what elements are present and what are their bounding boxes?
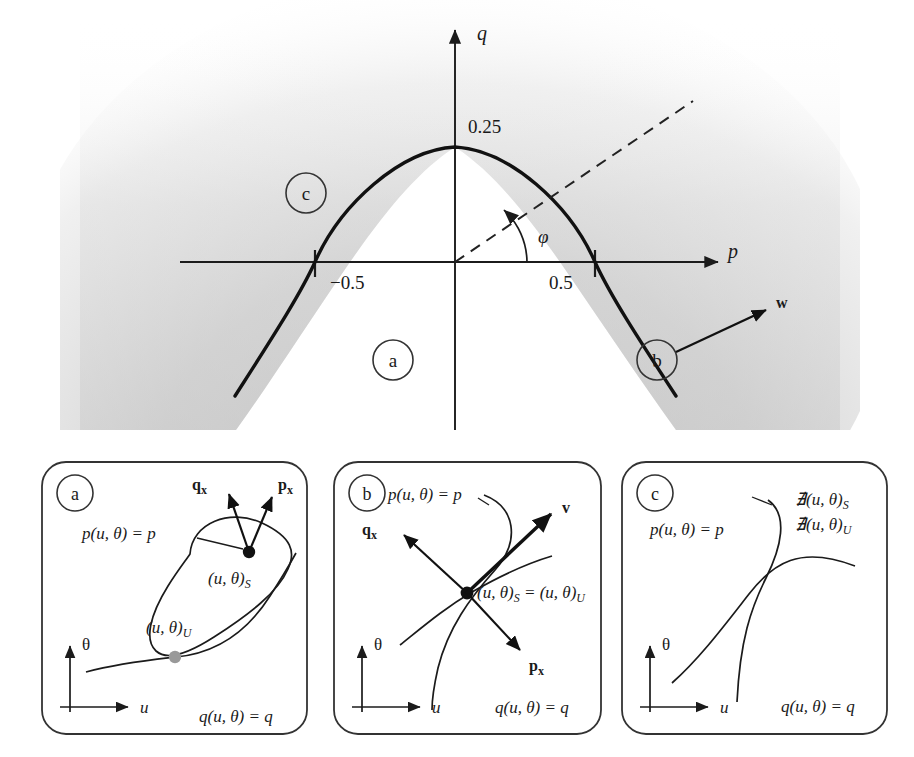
panel-a-p-equation: p(u, θ) = p: [81, 524, 156, 543]
region-badge-b-label: b: [652, 350, 662, 371]
panel-a-q-equation: q(u, θ) = q: [199, 707, 273, 726]
panel-a: a qx px p(u, θ) = p q(u, θ) = q (u, θ)S: [42, 462, 307, 734]
tick-label-minus-half: −0.5: [330, 272, 364, 293]
panel-c-u-label: u: [720, 698, 729, 717]
panel-b-merged-point-label: (u, θ)S = (u, θ)U: [477, 583, 586, 605]
panel-c-badge-label: c: [651, 484, 659, 504]
figure-svg: q p −0.5 0.5 0.25 φ c a: [0, 0, 914, 757]
panel-a-u-label: u: [140, 698, 149, 717]
w-vector-label: w: [776, 294, 788, 311]
figure-root: q p −0.5 0.5 0.25 φ c a: [0, 0, 914, 757]
panel-a-badge-label: a: [71, 484, 79, 504]
panel-b-v-label: v: [562, 499, 570, 516]
tick-label-vertex: 0.25: [468, 116, 501, 137]
tick-label-plus-half: 0.5: [549, 272, 573, 293]
phi-label: φ: [538, 226, 549, 247]
panel-b-p-equation: p(u, θ) = p: [387, 485, 462, 504]
panel-c-p-equation: p(u, θ) = p: [649, 520, 724, 539]
phi-angle-arc: [504, 210, 527, 262]
panel-c: c p(u, θ) = p q(u, θ) = q ∄(u, θ)S ∄(u, …: [622, 462, 887, 734]
panel-b-theta-label: θ: [374, 635, 382, 654]
panel-c-nonexistence-stable: ∄(u, θ)S: [795, 490, 849, 512]
panel-b: b qx px v p(u, θ) = p q(u, θ) = q (u: [334, 462, 601, 734]
region-badge-a: a: [373, 340, 413, 380]
panel-a-unstable-point: [169, 651, 181, 663]
p-axis-label: p: [726, 240, 738, 263]
panel-c-theta-label: θ: [662, 635, 670, 654]
region-badge-a-label: a: [389, 350, 398, 371]
region-badge-c-label: c: [302, 183, 310, 204]
panel-c-q-equation: q(u, θ) = q: [781, 697, 855, 716]
panel-a-theta-label: θ: [82, 635, 90, 654]
panel-a-stable-point-label: (u, θ)S: [208, 569, 251, 591]
panel-b-badge-label: b: [363, 484, 372, 504]
panel-b-q-equation: q(u, θ) = q: [495, 698, 569, 717]
panel-b-u-label: u: [432, 698, 441, 717]
q-axis-label: q: [477, 22, 487, 45]
